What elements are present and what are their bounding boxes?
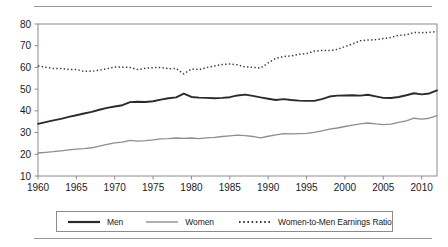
svg-text:1995: 1995 <box>295 182 318 193</box>
svg-text:2000: 2000 <box>334 182 357 193</box>
chart-figure: 1020304050607080196019651970197519801985… <box>0 0 448 247</box>
legend-label-women: Women <box>185 217 214 227</box>
chart-legend: Men Women Women-to-Men Earnings Ratio <box>56 211 393 232</box>
svg-text:1985: 1985 <box>219 182 242 193</box>
bottom-divider <box>34 238 432 239</box>
plot-area: 1020304050607080196019651970197519801985… <box>0 16 448 186</box>
legend-item-women: Women <box>145 217 214 227</box>
svg-text:60: 60 <box>20 62 32 73</box>
legend-swatch-ratio <box>238 217 272 227</box>
svg-text:50: 50 <box>20 84 32 95</box>
top-divider <box>34 6 432 7</box>
legend-item-ratio: Women-to-Men Earnings Ratio <box>238 217 392 227</box>
svg-text:1970: 1970 <box>104 182 127 193</box>
svg-text:20: 20 <box>20 149 32 160</box>
svg-text:30: 30 <box>20 127 32 138</box>
svg-text:40: 40 <box>20 105 32 116</box>
svg-text:1990: 1990 <box>257 182 280 193</box>
svg-text:70: 70 <box>20 40 32 51</box>
svg-text:10: 10 <box>20 171 32 182</box>
svg-text:1975: 1975 <box>142 182 165 193</box>
legend-swatch-men <box>67 217 101 227</box>
svg-text:1980: 1980 <box>180 182 203 193</box>
legend-item-men: Men <box>67 217 123 227</box>
legend-label-ratio: Women-to-Men Earnings Ratio <box>278 217 392 227</box>
line-chart-svg: 1020304050607080196019651970197519801985… <box>0 16 448 196</box>
legend-label-men: Men <box>107 217 123 227</box>
svg-text:80: 80 <box>20 19 32 30</box>
legend-swatch-women <box>145 217 179 227</box>
svg-text:1960: 1960 <box>27 182 50 193</box>
svg-text:1965: 1965 <box>65 182 88 193</box>
svg-text:2010: 2010 <box>411 182 434 193</box>
svg-text:2005: 2005 <box>372 182 395 193</box>
